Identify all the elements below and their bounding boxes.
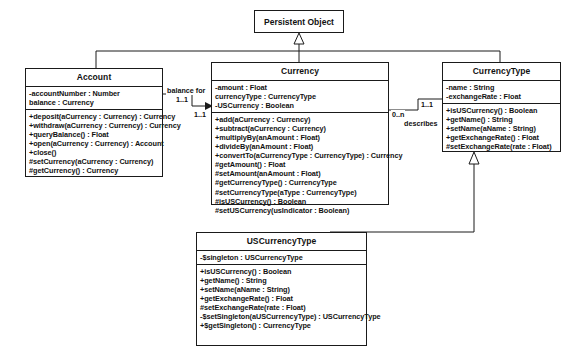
class-currency-name: Currency <box>212 63 388 80</box>
operation: +queryBalance() : Float <box>29 130 159 139</box>
operation: -$setSingleton(aUSCurrencyType) : USCurr… <box>200 312 363 321</box>
operation: #setAmount(anAmount : Float) <box>215 169 385 178</box>
assoc-label-balance-for: balance for <box>166 86 206 95</box>
class-account[interactable]: Account -accountNumber : Number balance … <box>25 68 163 177</box>
assoc-mult-currencytype-11: 1..1 <box>420 100 434 109</box>
class-persistent-object[interactable]: Persistent Object <box>254 10 344 33</box>
operation: #setCurrencyType(aType : CurrencyType) <box>215 188 385 197</box>
generalization-triangle-currencytype <box>469 152 479 164</box>
class-account-operations: +deposit(aCurrency : Currency) : Currenc… <box>26 109 162 178</box>
operation: #getCurrency() : Currency <box>29 166 159 175</box>
class-currencytype-name: CurrencyType <box>443 63 560 80</box>
class-account-attributes: -accountNumber : Number balance : Curren… <box>26 86 162 109</box>
attribute: -exchangeRate : Float <box>446 92 557 101</box>
attribute: -USCurrency : Boolean <box>215 101 385 110</box>
operation: #setUSCurrency(usIndicator : Boolean) <box>215 206 385 215</box>
operation: #getCurrencyType() : CurrencyType <box>215 178 385 187</box>
assoc-mult-account-side: 1..1 <box>175 95 189 104</box>
assoc-mult-currency-0n: 0..n <box>391 110 405 119</box>
operation: #getAmount() : Float <box>215 160 385 169</box>
attribute: -amount : Float <box>215 83 385 92</box>
assoc-mult-currency-side: 1..1 <box>193 110 207 119</box>
attribute: balance : Currency <box>29 98 159 107</box>
attribute: -accountNumber : Number <box>29 89 159 98</box>
operation: +setName(aName : String) <box>446 124 557 133</box>
operation: +multiplyBy(anAmount : Float) <box>215 133 385 142</box>
operation: +withdraw(aCurrency : Currency) : Curren… <box>29 121 159 130</box>
operation: +add(aCurrency : Currency) <box>215 115 385 124</box>
operation: +getName() : String <box>446 115 557 124</box>
class-uscurrencytype-attributes: -$singleton : USCurrencyType <box>197 250 366 264</box>
assoc-label-describes: describes <box>403 119 439 128</box>
operation: +setName(aName : String) <box>200 285 363 294</box>
operation: +open(aCurrency : Currency) : Account <box>29 139 159 148</box>
class-currencytype[interactable]: CurrencyType -name : String -exchangeRat… <box>442 62 561 152</box>
class-currency-attributes: -amount : Float currencyType : CurrencyT… <box>212 80 388 112</box>
class-uscurrencytype-name: USCurrencyType <box>197 233 366 250</box>
operation: #setCurrency(aCurrency : Currency) <box>29 157 159 166</box>
class-currency[interactable]: Currency -amount : Float currencyType : … <box>211 62 389 205</box>
operation: #isUSCurrency() : Boolean <box>215 197 385 206</box>
operation: +getExchangeRate() : Float <box>200 294 363 303</box>
class-uscurrencytype-operations: +isUSCurrency() : Boolean +getName() : S… <box>197 264 366 333</box>
operation: +$getSingleton() : CurrencyType <box>200 321 363 330</box>
operation: +convertTo(aCurrencyType : CurrencyType)… <box>215 151 385 160</box>
class-account-name: Account <box>26 69 162 86</box>
operation: +divideBy(anAmount : Float) <box>215 142 385 151</box>
operation: +getName() : String <box>200 276 363 285</box>
operation: #setExchangeRate(rate : Float) <box>446 142 557 151</box>
operation: +isUSCurrency() : Boolean <box>446 106 557 115</box>
class-currencytype-operations: +isUSCurrency() : Boolean +getName() : S… <box>443 103 560 153</box>
class-currencytype-attributes: -name : String -exchangeRate : Float <box>443 80 560 103</box>
operation: +isUSCurrency() : Boolean <box>200 267 363 276</box>
class-persistent-object-name: Persistent Object <box>264 17 334 27</box>
assoc-line-currency-currencytype <box>389 99 442 110</box>
class-uscurrencytype[interactable]: USCurrencyType -$singleton : USCurrencyT… <box>196 232 367 346</box>
operation: #setExchangeRate(rate : Float) <box>200 303 363 312</box>
operation: +deposit(aCurrency : Currency) : Currenc… <box>29 112 159 121</box>
operation: +close() <box>29 148 159 157</box>
operation: +getExchangeRate() : Float <box>446 133 557 142</box>
attribute: -$singleton : USCurrencyType <box>200 253 363 262</box>
generalization-triangle-persistent <box>294 33 304 44</box>
attribute: -name : String <box>446 83 557 92</box>
operation: +subtract(aCurrency : Currency) <box>215 124 385 133</box>
attribute: currencyType : CurrencyType <box>215 92 385 101</box>
class-currency-operations: +add(aCurrency : Currency) +subtract(aCu… <box>212 112 388 217</box>
uml-class-diagram-canvas: Persistent Object Account -accountNumber… <box>0 0 568 355</box>
